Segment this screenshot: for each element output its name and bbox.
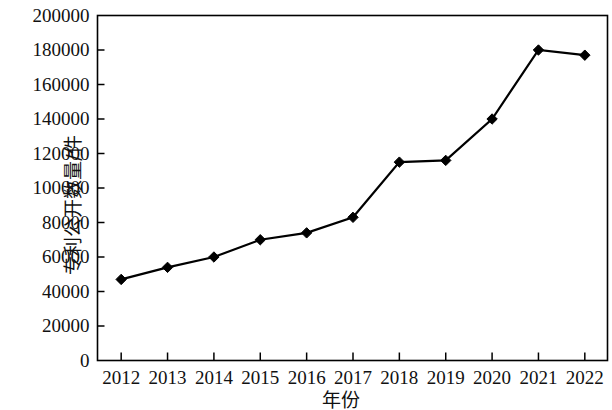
x-axis-tick-label: 2013 [149,367,187,389]
chart-background [0,0,612,410]
y-axis-title: 专利公开数量/件 [58,135,85,274]
x-axis-tick-label: 2012 [102,367,140,389]
x-axis-tick-label: 2018 [380,367,418,389]
y-axis-tick-label: 40000 [0,281,90,303]
chart-plot-area [0,0,612,410]
x-axis-tick-label: 2014 [195,367,233,389]
x-axis-tick-label: 2020 [473,367,511,389]
y-axis-tick-label: 140000 [0,108,90,130]
y-axis-tick-label: 180000 [0,39,90,61]
y-axis-tick-label: 20000 [0,315,90,337]
x-axis-tick-label: 2021 [519,367,557,389]
x-axis-tick-label: 2015 [241,367,279,389]
y-axis-tick-label: 160000 [0,74,90,96]
x-axis-tick-label: 2019 [427,367,465,389]
x-axis-title: 年份 [322,385,360,410]
y-axis-tick-label: 0 [0,350,90,372]
x-axis-tick-label: 2016 [288,367,326,389]
x-axis-tick-label: 2022 [566,367,604,389]
line-chart: 0200004000060000800001000001200001400001… [0,0,612,410]
y-axis-tick-label: 200000 [0,5,90,27]
